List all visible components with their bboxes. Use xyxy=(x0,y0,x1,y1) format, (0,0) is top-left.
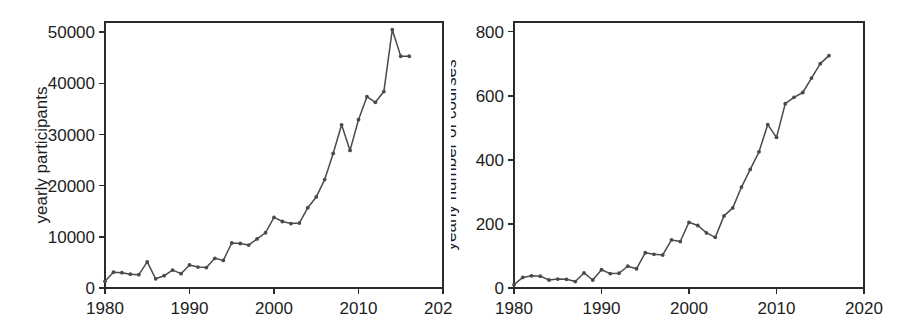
data-point-marker xyxy=(740,185,744,189)
data-point-marker xyxy=(297,221,301,225)
y-tick-label: 10000 xyxy=(48,228,95,247)
chart-panel-participants: 0100002000030000400005000019801990200020… xyxy=(0,0,452,332)
x-tick-label: 2000 xyxy=(255,299,293,318)
series-line xyxy=(105,30,409,282)
data-point-marker xyxy=(188,263,192,267)
data-point-marker xyxy=(512,283,516,287)
data-point-marker xyxy=(556,277,560,281)
data-point-marker xyxy=(678,240,682,244)
data-point-marker xyxy=(255,237,259,241)
data-point-marker xyxy=(705,231,709,235)
data-point-marker xyxy=(810,76,814,80)
data-point-marker xyxy=(196,265,200,269)
data-point-marker xyxy=(103,279,107,283)
data-point-marker xyxy=(766,123,770,127)
data-point-marker xyxy=(340,123,344,127)
data-point-marker xyxy=(120,271,124,275)
y-tick-label: 200 xyxy=(476,215,504,234)
data-point-marker xyxy=(264,231,268,235)
data-point-marker xyxy=(617,271,621,275)
data-point-marker xyxy=(112,270,116,274)
data-point-marker xyxy=(687,220,691,224)
data-point-marker xyxy=(792,95,796,99)
y-tick-label: 30000 xyxy=(48,126,95,145)
x-tick-label: 2010 xyxy=(340,299,378,318)
data-point-marker xyxy=(162,274,166,278)
x-tick-label: 2000 xyxy=(670,299,708,318)
data-point-marker xyxy=(670,238,674,242)
x-tick-label: 1980 xyxy=(86,299,124,318)
data-point-marker xyxy=(801,91,805,95)
data-point-marker xyxy=(731,206,735,210)
data-point-marker xyxy=(331,152,335,156)
y-tick-label: 20000 xyxy=(48,177,95,196)
data-point-marker xyxy=(281,220,285,224)
x-tick-label: 2010 xyxy=(758,299,796,318)
data-point-marker xyxy=(213,256,217,260)
x-tick-label: 1990 xyxy=(583,299,621,318)
data-point-marker xyxy=(783,102,787,106)
data-point-marker xyxy=(818,62,822,66)
data-point-marker xyxy=(635,267,639,271)
data-point-marker xyxy=(757,150,761,154)
data-point-marker xyxy=(565,277,569,281)
data-point-marker xyxy=(137,273,141,277)
y-axis-title: yearly number of courses xyxy=(451,60,460,251)
data-point-marker xyxy=(390,28,394,32)
y-tick-label: 800 xyxy=(476,23,504,42)
data-point-marker xyxy=(696,224,700,228)
data-point-marker xyxy=(591,278,595,282)
y-axis-title: yearly participants xyxy=(32,86,51,223)
data-point-marker xyxy=(145,260,149,264)
data-point-marker xyxy=(128,272,132,276)
data-point-marker xyxy=(323,178,327,182)
data-point-marker xyxy=(538,274,542,278)
y-tick-label: 50000 xyxy=(48,23,95,42)
data-point-marker xyxy=(382,90,386,94)
data-point-marker xyxy=(713,235,717,239)
x-tick-label: 1990 xyxy=(171,299,209,318)
data-point-marker xyxy=(530,274,534,278)
data-point-marker xyxy=(407,54,411,58)
data-point-marker xyxy=(399,54,403,58)
y-tick-label: 600 xyxy=(476,87,504,106)
data-point-marker xyxy=(154,277,158,281)
data-point-marker xyxy=(582,271,586,275)
participants-chart-svg: 0100002000030000400005000019801990200020… xyxy=(0,0,452,332)
data-point-marker xyxy=(289,222,293,226)
data-point-marker xyxy=(365,95,369,99)
figure-two-panel-line-charts: 0100002000030000400005000019801990200020… xyxy=(0,0,903,332)
data-point-marker xyxy=(521,276,525,280)
x-tick-label: 1980 xyxy=(495,299,533,318)
x-tick-label: 2020 xyxy=(845,299,883,318)
data-point-marker xyxy=(748,168,752,172)
data-point-marker xyxy=(573,280,577,284)
data-point-marker xyxy=(600,268,604,272)
data-point-marker xyxy=(230,241,234,245)
data-point-marker xyxy=(661,253,665,257)
x-tick-label: 2020 xyxy=(424,299,452,318)
data-point-marker xyxy=(238,242,242,246)
data-point-marker xyxy=(722,214,726,218)
courses-chart-svg: 020040060080019801990200020102020yearly … xyxy=(451,0,903,332)
data-point-marker xyxy=(608,272,612,276)
data-point-marker xyxy=(547,278,551,282)
y-tick-label: 0 xyxy=(495,279,504,298)
data-point-marker xyxy=(247,243,251,247)
data-point-marker xyxy=(643,251,647,255)
y-tick-label: 0 xyxy=(86,279,95,298)
data-point-marker xyxy=(775,135,779,139)
y-tick-label: 40000 xyxy=(48,74,95,93)
y-tick-label: 400 xyxy=(476,151,504,170)
chart-panel-courses: 020040060080019801990200020102020yearly … xyxy=(451,0,903,332)
data-point-marker xyxy=(314,195,318,199)
data-point-marker xyxy=(205,266,209,270)
data-point-marker xyxy=(348,149,352,153)
data-point-marker xyxy=(221,258,225,262)
data-point-marker xyxy=(357,118,361,122)
data-point-marker xyxy=(179,272,183,276)
data-point-marker xyxy=(827,54,831,58)
data-point-marker xyxy=(626,264,630,268)
data-point-marker xyxy=(272,216,276,220)
data-point-marker xyxy=(306,206,310,210)
